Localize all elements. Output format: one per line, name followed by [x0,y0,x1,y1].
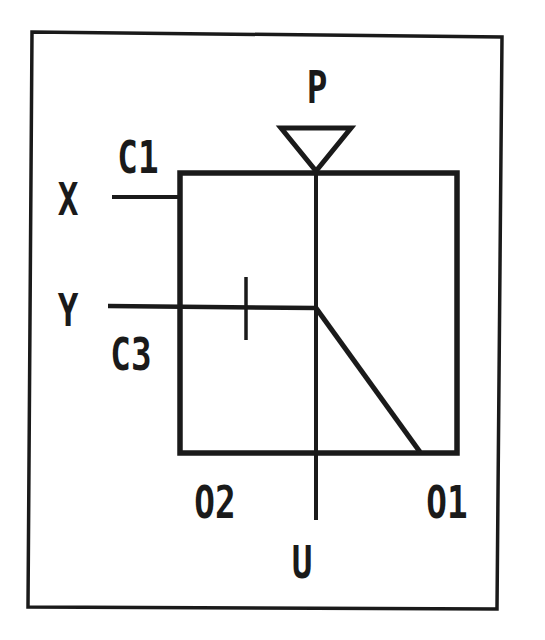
diagonal-flow-line [316,308,420,452]
label-y: Y [58,289,79,333]
label-o2: O2 [194,481,235,525]
label-c1: C1 [117,136,158,180]
y-pilot-line [108,306,316,308]
label-c3: C3 [110,333,151,377]
label-p: P [307,66,328,110]
label-o1: O1 [426,481,467,525]
label-x: X [58,178,79,222]
label-u: U [292,541,313,585]
valve-diagram [0,0,545,640]
pressure-port-triangle-icon [281,128,351,171]
